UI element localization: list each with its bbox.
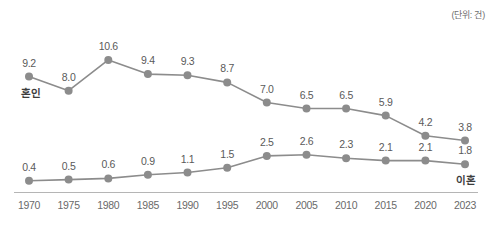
data-point-marker[interactable] [342, 154, 350, 162]
x-tick-1970: 1970 [18, 199, 40, 211]
data-value-label: 0.4 [22, 161, 36, 173]
data-value-label: 1.5 [220, 148, 234, 160]
data-value-label: 9.2 [22, 57, 36, 69]
data-point-marker[interactable] [144, 171, 152, 179]
x-tick-2005: 2005 [295, 199, 317, 211]
data-value-label: 2.5 [260, 136, 274, 148]
data-point-marker[interactable] [104, 174, 112, 182]
data-point-marker[interactable] [144, 70, 152, 78]
data-point-marker[interactable] [382, 157, 390, 165]
data-value-label: 9.4 [141, 54, 155, 66]
x-tick-1990: 1990 [176, 199, 198, 211]
data-value-label: 10.6 [99, 40, 118, 52]
x-tick-2020: 2020 [414, 199, 436, 211]
data-value-label: 8.7 [220, 62, 234, 74]
data-value-label: 0.6 [101, 158, 115, 170]
x-tick-1985: 1985 [137, 199, 159, 211]
data-point-marker[interactable] [461, 160, 469, 168]
data-value-label: 3.8 [458, 121, 472, 133]
data-point-marker[interactable] [104, 56, 112, 64]
line-chart: (단위: 건) 9.28.010.69.49.38.77.06.56.55.94… [0, 0, 495, 225]
data-point-marker[interactable] [25, 73, 33, 81]
data-value-label: 2.1 [419, 141, 433, 153]
series-line-1 [29, 60, 465, 141]
data-point-marker[interactable] [303, 151, 311, 159]
data-point-marker[interactable] [263, 99, 271, 107]
data-point-marker[interactable] [382, 112, 390, 120]
x-tick-2015: 2015 [375, 199, 397, 211]
data-point-marker[interactable] [342, 105, 350, 113]
series-label-혼인: 혼인 [21, 85, 40, 100]
x-tick-1995: 1995 [216, 199, 238, 211]
series-label-이혼: 이혼 [456, 172, 475, 187]
plot-area [0, 0, 495, 225]
x-tick-1975: 1975 [58, 199, 80, 211]
data-value-label: 2.6 [300, 135, 314, 147]
data-value-label: 1.1 [181, 153, 195, 165]
data-point-marker[interactable] [421, 157, 429, 165]
data-value-label: 5.9 [379, 96, 393, 108]
data-point-marker[interactable] [65, 87, 73, 95]
data-value-label: 6.5 [339, 89, 353, 101]
data-value-label: 9.3 [181, 55, 195, 67]
data-value-label: 7.0 [260, 83, 274, 95]
data-point-marker[interactable] [263, 152, 271, 160]
data-point-marker[interactable] [223, 164, 231, 172]
x-tick-2023: 2023 [454, 199, 476, 211]
x-tick-1980: 1980 [97, 199, 119, 211]
data-value-label: 2.1 [379, 141, 393, 153]
series-line-2 [29, 155, 465, 181]
x-tick-2000: 2000 [256, 199, 278, 211]
data-point-marker[interactable] [184, 71, 192, 79]
data-value-label: 2.3 [339, 138, 353, 150]
data-point-marker[interactable] [421, 132, 429, 140]
data-point-marker[interactable] [65, 176, 73, 184]
data-value-label: 1.8 [458, 144, 472, 156]
data-point-marker[interactable] [303, 105, 311, 113]
data-point-marker[interactable] [184, 169, 192, 177]
x-tick-2010: 2010 [335, 199, 357, 211]
data-value-label: 4.2 [419, 116, 433, 128]
data-value-label: 0.9 [141, 155, 155, 167]
data-value-label: 8.0 [62, 71, 76, 83]
data-point-marker[interactable] [223, 78, 231, 86]
data-value-label: 6.5 [300, 89, 314, 101]
data-value-label: 0.5 [62, 160, 76, 172]
data-point-marker[interactable] [25, 177, 33, 185]
